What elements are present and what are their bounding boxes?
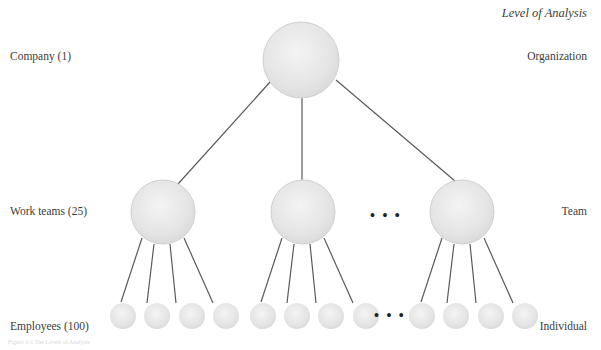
employee-node [110,303,136,329]
employee-node [512,303,538,329]
employee-node [443,303,469,329]
team-ellipsis: • • • [370,208,402,224]
team-node-3 [430,180,494,244]
figure-caption: Figure 1-1 The Levels of Analysis [8,339,90,345]
employees-label: Employees (100) [10,320,89,332]
individual-label: Individual [540,320,587,332]
organization-label: Organization [527,50,587,62]
employee-node [478,303,504,329]
hierarchy-diagram [0,0,601,350]
employee-node [250,303,276,329]
employee-node [318,303,344,329]
team-label: Team [562,205,587,217]
employee-node [409,303,435,329]
employee-ellipsis: • • • [374,308,406,324]
level-of-analysis-heading: Level of Analysis [502,6,587,21]
employee-node [284,303,310,329]
team-node-2 [271,180,335,244]
company-label: Company (1) [10,50,71,62]
team-node-1 [131,180,195,244]
employee-node [144,303,170,329]
work-teams-label: Work teams (25) [10,205,87,217]
organization-node [263,22,339,98]
employee-node [179,303,205,329]
employee-node [213,303,239,329]
